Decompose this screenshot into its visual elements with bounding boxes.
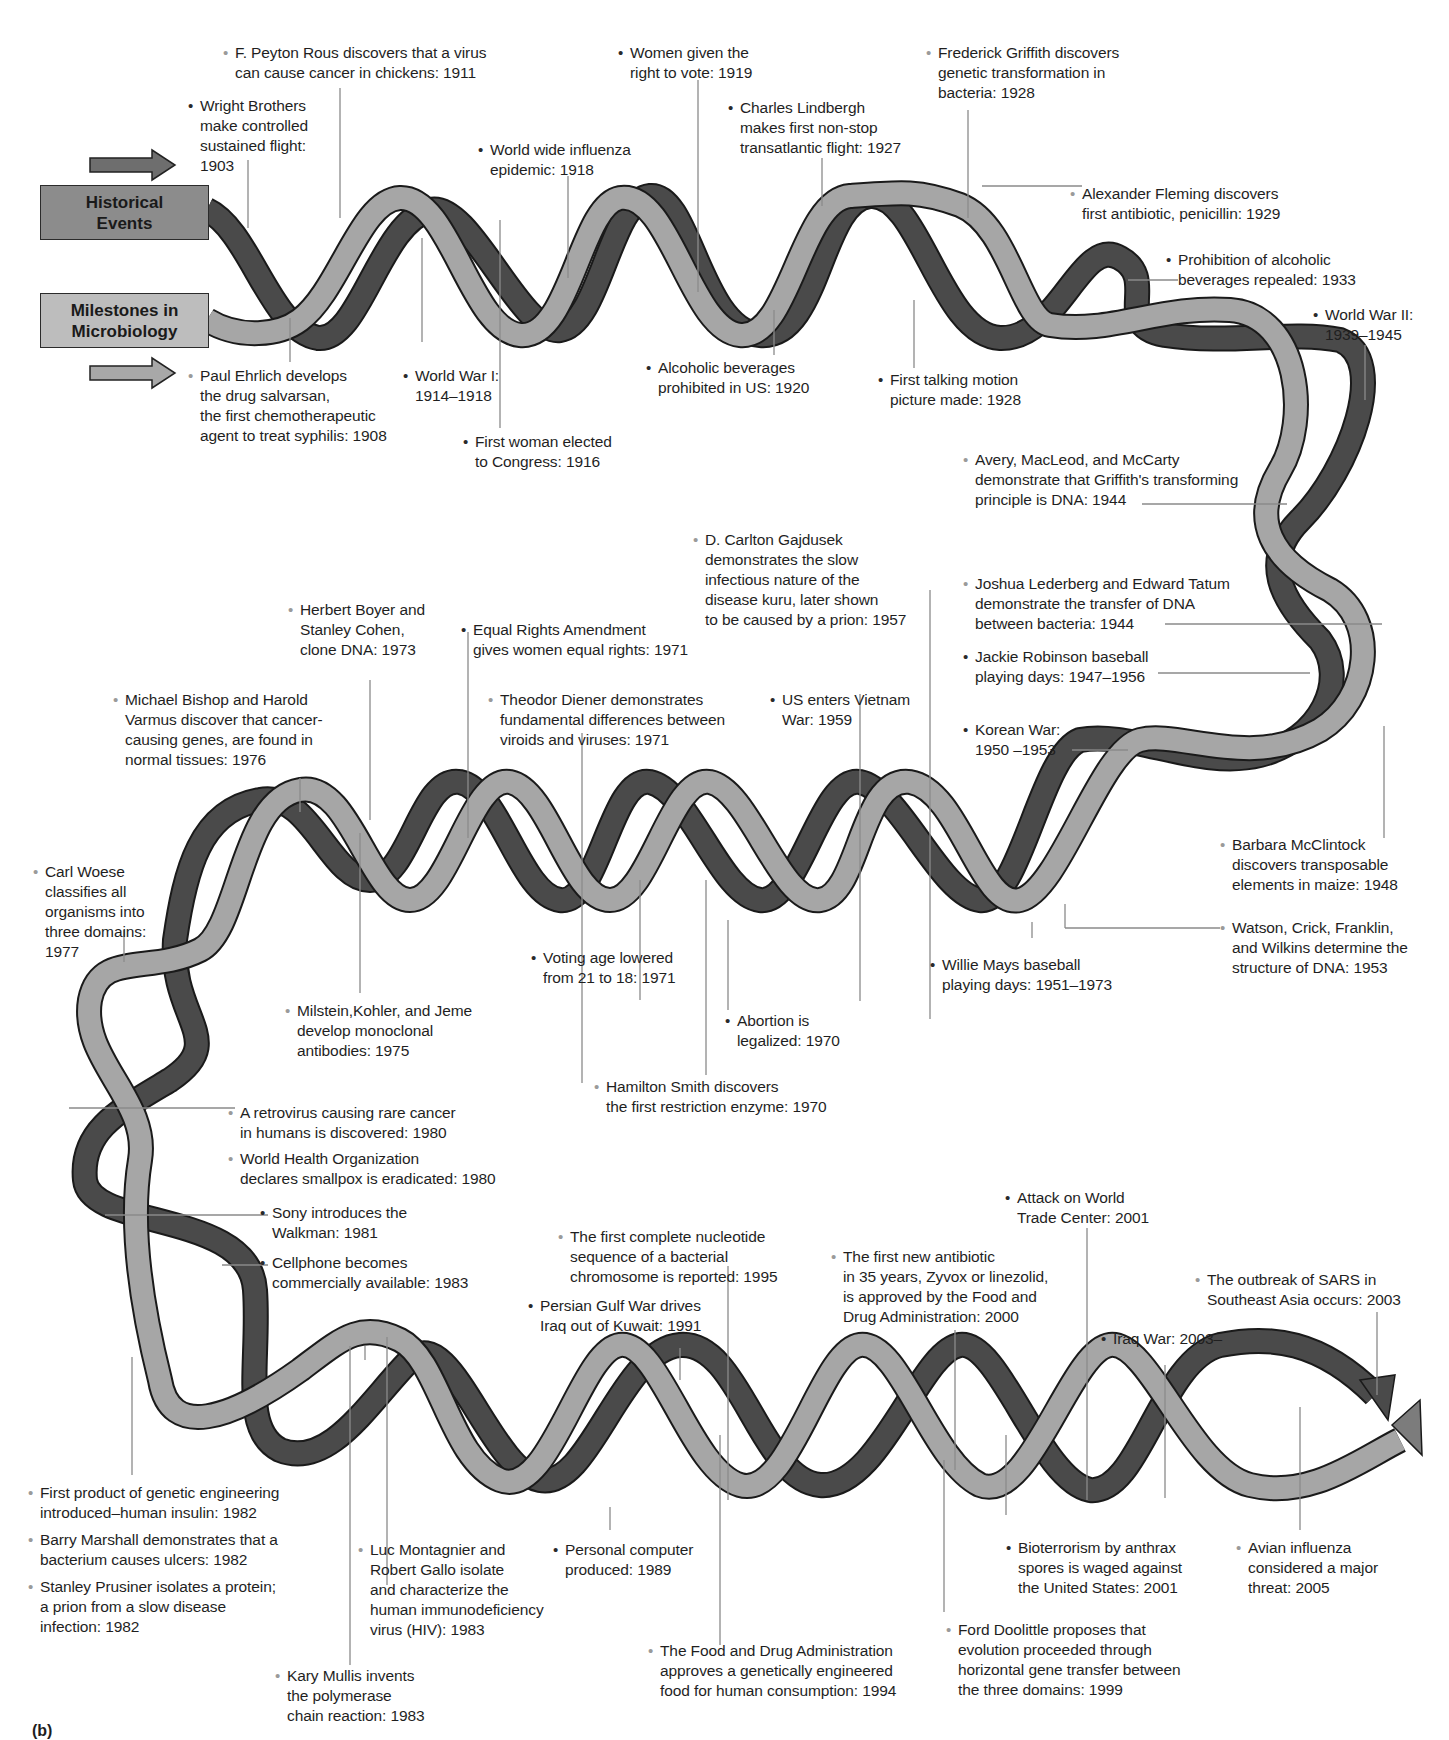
historical-event-label: •First talking motion picture made: 1928: [890, 370, 1021, 410]
historical-event-label: •World War II: 1939–1945: [1325, 305, 1413, 345]
event-text: World wide influenza epidemic: 1918: [490, 141, 631, 178]
bullet-icon: •: [28, 1483, 33, 1503]
microbiology-milestone-label: •Avery, MacLeod, and McCarty demonstrate…: [975, 450, 1238, 510]
bullet-icon: •: [963, 720, 968, 740]
bullet-icon: •: [33, 862, 38, 882]
bullet-icon: •: [831, 1247, 836, 1267]
microbiology-milestone-label: •The first new antibiotic in 35 years, Z…: [843, 1247, 1048, 1327]
bullet-icon: •: [558, 1227, 563, 1247]
historical-event-label: •Women given the right to vote: 1919: [630, 43, 752, 83]
bullet-icon: •: [463, 432, 468, 452]
microbiology-milestone-label: •Luc Montagnier and Robert Gallo isolate…: [370, 1540, 544, 1640]
event-text: The first new antibiotic in 35 years, Zy…: [843, 1248, 1048, 1325]
bullet-icon: •: [188, 366, 193, 386]
event-text: Barbara McClintock discovers transposabl…: [1232, 836, 1398, 893]
event-text: Avery, MacLeod, and McCarty demonstrate …: [975, 451, 1238, 508]
microbiology-milestone-label: •Avian influenza considered a major thre…: [1248, 1538, 1378, 1598]
bullet-icon: •: [1006, 1538, 1011, 1558]
microbiology-milestone-label: •Ford Doolittle proposes that evolution …: [958, 1620, 1181, 1700]
bullet-icon: •: [725, 1011, 730, 1031]
historical-arrow-icon: [90, 150, 175, 180]
legend-microbiology-label: Milestones in Microbiology: [71, 300, 179, 342]
event-text: The first complete nucleotide sequence o…: [570, 1228, 777, 1285]
bullet-icon: •: [488, 690, 493, 710]
bullet-icon: •: [770, 690, 775, 710]
historical-event-label: •Wright Brothers make controlled sustain…: [200, 96, 308, 176]
microbiology-milestone-label: •F. Peyton Rous discovers that a virus c…: [235, 43, 486, 83]
historical-event-label: •Iraq War: 2003–: [1113, 1329, 1222, 1349]
bullet-icon: •: [285, 1001, 290, 1021]
event-text: Paul Ehrlich develops the drug salvarsan…: [200, 367, 387, 444]
bullet-icon: •: [275, 1666, 280, 1686]
event-text: Cellphone becomes commercially available…: [272, 1254, 468, 1291]
event-text: Michael Bishop and Harold Varmus discove…: [125, 691, 323, 768]
bullet-icon: •: [403, 366, 408, 386]
bullet-icon: •: [946, 1620, 951, 1640]
event-text: D. Carlton Gajdusek demonstrates the slo…: [705, 531, 906, 628]
event-text: Abortion is legalized: 1970: [737, 1012, 840, 1049]
event-text: Attack on World Trade Center: 2001: [1017, 1189, 1149, 1226]
microbiology-milestone-label: •World Health Organization declares smal…: [240, 1149, 496, 1189]
event-text: Personal computer produced: 1989: [565, 1541, 693, 1578]
event-text: Carl Woese classifies all organisms into…: [45, 863, 146, 960]
bullet-icon: •: [188, 96, 193, 116]
event-text: F. Peyton Rous discovers that a virus ca…: [235, 44, 486, 81]
event-text: Women given the right to vote: 1919: [630, 44, 752, 81]
bullet-icon: •: [223, 43, 228, 63]
bullet-icon: •: [1101, 1329, 1106, 1349]
bullet-icon: •: [528, 1296, 533, 1316]
bullet-icon: •: [1220, 918, 1225, 938]
microbiology-milestone-label: •Alexander Fleming discovers first antib…: [1082, 184, 1280, 224]
bullet-icon: •: [963, 574, 968, 594]
historical-event-label: •Korean War: 1950 –1953: [975, 720, 1060, 760]
historical-event-label: •Persian Gulf War drives Iraq out of Kuw…: [540, 1296, 701, 1336]
event-text: The outbreak of SARS in Southeast Asia o…: [1207, 1271, 1401, 1308]
event-text: Charles Lindbergh makes first non-stop t…: [740, 99, 901, 156]
microbiology-milestone-label: •Joshua Lederberg and Edward Tatum demon…: [975, 574, 1230, 634]
historical-event-label: •Prohibition of alcoholic beverages repe…: [1178, 250, 1356, 290]
microbiology-milestone-label: •Barry Marshall demonstrates that a bact…: [40, 1530, 278, 1570]
event-text: Jackie Robinson baseball playing days: 1…: [975, 648, 1148, 685]
historical-event-label: •Abortion is legalized: 1970: [737, 1011, 840, 1051]
bullet-icon: •: [553, 1540, 558, 1560]
bullet-icon: •: [260, 1203, 265, 1223]
event-text: Korean War: 1950 –1953: [975, 721, 1060, 758]
bullet-icon: •: [28, 1577, 33, 1597]
historical-event-label: •First woman elected to Congress: 1916: [475, 432, 612, 472]
microbiology-milestone-label: •Carl Woese classifies all organisms int…: [45, 862, 146, 962]
bullet-icon: •: [646, 358, 651, 378]
bullet-icon: •: [728, 98, 733, 118]
microbiology-milestone-label: •Barbara McClintock discovers transposab…: [1232, 835, 1398, 895]
bullet-icon: •: [693, 530, 698, 550]
microbiology-milestone-label: •First product of genetic engineering in…: [40, 1483, 279, 1523]
event-text: Milstein,Kohler, and Jeme develop monocl…: [297, 1002, 472, 1059]
event-text: First woman elected to Congress: 1916: [475, 433, 612, 470]
event-text: Willie Mays baseball playing days: 1951–…: [942, 956, 1112, 993]
historical-event-label: •Willie Mays baseball playing days: 1951…: [942, 955, 1112, 995]
bullet-icon: •: [1166, 250, 1171, 270]
historical-event-label: •Personal computer produced: 1989: [565, 1540, 693, 1580]
bullet-icon: •: [228, 1103, 233, 1123]
bullet-icon: •: [618, 43, 623, 63]
bullet-icon: •: [930, 955, 935, 975]
event-text: Avian influenza considered a major threa…: [1248, 1539, 1378, 1596]
event-text: Alcoholic beverages prohibited in US: 19…: [658, 359, 809, 396]
microbiology-milestone-label: •Kary Mullis invents the polymerase chai…: [287, 1666, 425, 1726]
bullet-icon: •: [926, 43, 931, 63]
event-text: Joshua Lederberg and Edward Tatum demons…: [975, 575, 1230, 632]
event-text: Frederick Griffith discovers genetic tra…: [938, 44, 1119, 101]
event-text: Hamilton Smith discovers the first restr…: [606, 1078, 827, 1115]
microbiology-arrow-icon: [90, 358, 175, 388]
microbiology-milestone-label: •Watson, Crick, Franklin, and Wilkins de…: [1232, 918, 1408, 978]
microbiology-milestone-label: •Stanley Prusiner isolates a protein; a …: [40, 1577, 276, 1637]
event-text: First talking motion picture made: 1928: [890, 371, 1021, 408]
event-text: Persian Gulf War drives Iraq out of Kuwa…: [540, 1297, 701, 1334]
historical-event-label: •World War I: 1914–1918: [415, 366, 499, 406]
microbiology-milestone-label: •Michael Bishop and Harold Varmus discov…: [125, 690, 323, 770]
historical-event-label: •Alcoholic beverages prohibited in US: 1…: [658, 358, 809, 398]
microbiology-milestone-label: •The outbreak of SARS in Southeast Asia …: [1207, 1270, 1401, 1310]
bullet-icon: •: [963, 450, 968, 470]
bullet-icon: •: [478, 140, 483, 160]
microbiology-milestone-label: •Herbert Boyer and Stanley Cohen, clone …: [300, 600, 425, 660]
legend-historical-events: Historical Events: [40, 185, 209, 240]
